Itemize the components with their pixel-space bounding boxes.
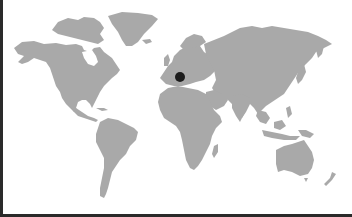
southeast-asia: [256, 110, 270, 124]
location-marker[interactable]: [175, 72, 185, 82]
arctic-islands: [52, 17, 104, 44]
philippines: [286, 106, 292, 118]
map-frame: [0, 0, 352, 217]
frame-border-bottom: [0, 214, 352, 217]
borneo: [274, 120, 286, 130]
world-map: [3, 0, 352, 214]
iceland: [142, 39, 152, 44]
britain: [164, 54, 170, 66]
indonesia: [262, 130, 300, 140]
frame-border-left: [0, 0, 3, 217]
south-america: [96, 118, 138, 198]
new-zealand: [324, 172, 336, 186]
central-america: [70, 106, 98, 122]
tasmania: [304, 178, 308, 182]
new-guinea: [298, 130, 314, 138]
caribbean: [96, 108, 108, 111]
north-america: [14, 41, 120, 112]
madagascar: [212, 144, 218, 158]
australia: [276, 140, 314, 176]
